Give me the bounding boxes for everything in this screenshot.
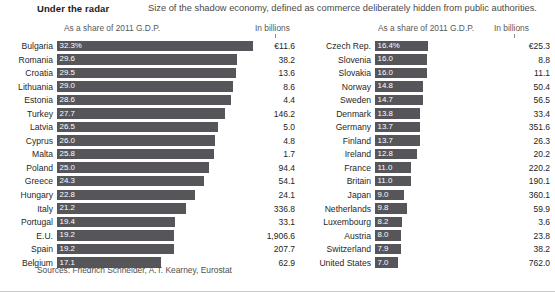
bar-row: Romania29.638.2 [0,54,300,68]
billions-value: 3.6 [485,217,550,227]
country-label: Finland [310,136,371,146]
bar-row: Czech Rep.16.4%€25.3 [300,40,555,54]
bar: 13.7 [375,135,420,146]
country-label: Japan [310,190,371,200]
right-billions-header: In billions [494,23,529,33]
bar: 29.6 [57,54,237,65]
country-label: Croatia [0,68,53,78]
bar-value-label: 19.4 [60,218,75,226]
bar-track: 7.9 [375,244,480,255]
billions-value: 50.4 [485,82,550,92]
billions-value: 1.7 [248,149,295,159]
bar-track: 14.7 [375,95,480,106]
bar-row: Estonia28.64.4 [0,94,300,108]
bar-value-label: 26.0 [60,137,75,145]
bar-value-label: 16.4% [378,42,400,50]
bar-track: 16.0 [375,54,480,65]
bar-row: Slovakia16.011.1 [300,67,555,81]
page-title: Under the radar [37,3,109,14]
billions-value: 8.6 [248,82,295,92]
bar: 26.5 [57,122,218,133]
bar-value-label: 16.0 [378,55,393,63]
country-label: Cyprus [0,136,53,146]
bar-value-label: 21.2 [60,204,75,212]
billions-value: 1,906.6 [248,231,295,241]
country-label: Ireland [310,149,371,159]
billions-value: 94.4 [248,163,295,173]
billions-value: 220.2 [485,163,550,173]
bar-value-label: 25.8 [60,150,75,158]
left-billions-header: In billions [255,23,290,33]
bar-track: 28.6 [57,95,253,106]
bar: 28.6 [57,95,231,106]
bar-value-label: 29.5 [60,69,75,77]
country-label: E.U. [0,231,53,241]
billions-value: 762.0 [485,258,550,268]
bar-track: 25.8 [57,149,253,160]
bar-value-label: 13.8 [378,110,393,118]
bar-track: 13.7 [375,122,480,133]
bar: 32.3% [57,41,253,52]
billions-value: 13.6 [248,68,295,78]
bar: 27.7 [57,108,225,119]
bar: 9.8 [375,203,407,214]
bar-value-label: 14.7 [378,96,393,104]
bar-value-label: 9.0 [378,191,389,199]
bar-track: 24.3 [57,176,253,187]
bar-value-label: 11.0 [378,164,393,172]
country-label: United States [310,258,371,268]
bar: 8.0 [375,230,401,241]
billions-value: 11.1 [485,68,550,78]
bar-row: Malta25.81.7 [0,148,300,162]
bar-row: Turkey27.7146.2 [0,108,300,122]
billions-value: 351.6 [485,122,550,132]
bar-track: 29.5 [57,68,253,79]
bar-value-label: 29.6 [60,55,75,63]
bar-row: Italy21.2336.8 [0,203,300,217]
billions-value: 59.9 [485,204,550,214]
bar-value-label: 13.7 [378,137,393,145]
bar-value-label: 12.8 [378,150,393,158]
country-label: Malta [0,149,53,159]
sources-note: Sources: Friedrich Schneider, A.T. Kearn… [37,265,232,275]
bar: 11.0 [375,162,411,173]
bar-value-label: 32.3% [60,42,82,50]
country-label: Slovakia [310,68,371,78]
bar-row: Japan9.0360.1 [300,189,555,203]
country-label: Czech Rep. [310,41,371,51]
bar-value-label: 14.8 [378,82,393,90]
bar-row: Bulgaria32.3%€11.6 [0,40,300,54]
country-label: Netherlands [310,204,371,214]
bar-track: 8.2 [375,217,480,228]
billions-value: 5.0 [248,122,295,132]
bar-value-label: 7.9 [378,245,389,253]
bar-track: 12.8 [375,149,480,160]
country-label: Spain [0,244,53,254]
bar-track: 26.0 [57,135,253,146]
bar-row: Austria8.023.8 [300,230,555,244]
country-label: Poland [0,163,53,173]
bar-row: Hungary22.824.1 [0,189,300,203]
bar-track: 9.8 [375,203,480,214]
bar-row: Croatia29.513.6 [0,67,300,81]
bar: 19.4 [57,217,175,228]
bar: 7.0 [375,257,398,268]
country-label: Denmark [310,109,371,119]
right-billions-tick-icon [514,34,515,38]
billions-value: 4.4 [248,95,295,105]
bar: 14.7 [375,95,423,106]
country-label: Hungary [0,190,53,200]
bar-row: Finland13.726.3 [300,135,555,149]
country-label: Greece [0,176,53,186]
billions-value: 26.3 [485,136,550,146]
bar-track: 19.2 [57,244,253,255]
bar: 9.0 [375,190,404,201]
bar-value-label: 19.2 [60,245,75,253]
bar-panel-right: Czech Rep.16.4%€25.3Slovenia16.08.8Slova… [300,40,555,270]
bar-value-label: 8.2 [378,218,389,226]
bar-track: 19.2 [57,230,253,241]
bar: 7.9 [375,244,401,255]
bar: 19.2 [57,230,174,241]
billions-value: 38.2 [485,244,550,254]
bar-row: Britain11.0190.1 [300,175,555,189]
